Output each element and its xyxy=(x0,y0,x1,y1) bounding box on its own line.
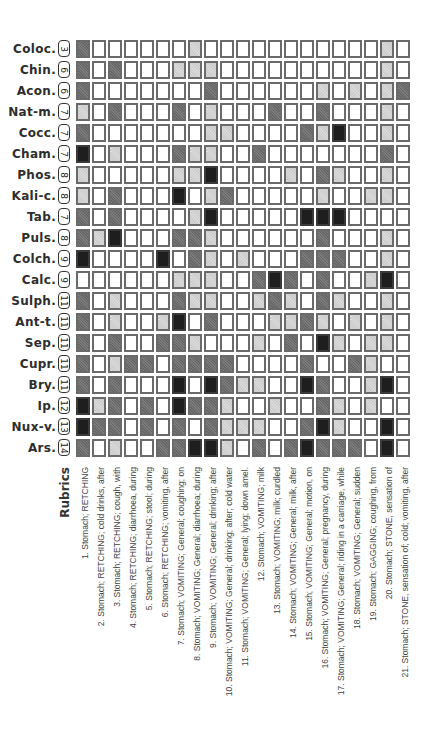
grade-cell[interactable] xyxy=(268,271,282,289)
remedy-name[interactable]: Sulph. xyxy=(0,292,56,310)
remedy-row[interactable]: Nux-v.13 xyxy=(0,418,420,436)
grade-cell[interactable] xyxy=(268,376,282,394)
grade-cell[interactable] xyxy=(284,439,298,457)
grade-cell[interactable] xyxy=(92,229,106,247)
grade-cell[interactable] xyxy=(124,376,138,394)
grade-cell[interactable] xyxy=(300,145,314,163)
grade-cell[interactable] xyxy=(172,355,186,373)
grade-cell[interactable] xyxy=(268,187,282,205)
grade-cell[interactable] xyxy=(188,292,202,310)
grade-cell[interactable] xyxy=(252,166,266,184)
grade-cell[interactable] xyxy=(380,166,394,184)
grade-cell[interactable] xyxy=(380,145,394,163)
grade-cell[interactable] xyxy=(204,82,218,100)
grade-cell[interactable] xyxy=(124,334,138,352)
grade-cell[interactable] xyxy=(348,313,362,331)
grade-cell[interactable] xyxy=(140,439,154,457)
grade-cell[interactable] xyxy=(220,439,234,457)
grade-cell[interactable] xyxy=(252,187,266,205)
grade-cell[interactable] xyxy=(332,313,346,331)
grade-cell[interactable] xyxy=(316,208,330,226)
grade-cell[interactable] xyxy=(220,271,234,289)
grade-cell[interactable] xyxy=(348,208,362,226)
grade-cell[interactable] xyxy=(284,355,298,373)
remedy-row[interactable]: Bry.11 xyxy=(0,376,420,394)
grade-cell[interactable] xyxy=(268,397,282,415)
grade-cell[interactable] xyxy=(300,271,314,289)
grade-cell[interactable] xyxy=(396,208,410,226)
grade-cell[interactable] xyxy=(92,40,106,58)
grade-cell[interactable] xyxy=(332,61,346,79)
grade-cell[interactable] xyxy=(380,229,394,247)
grade-cell[interactable] xyxy=(252,313,266,331)
grade-cell[interactable] xyxy=(364,355,378,373)
grade-cell[interactable] xyxy=(236,313,250,331)
grade-cell[interactable] xyxy=(76,439,90,457)
grade-cell[interactable] xyxy=(396,418,410,436)
grade-cell[interactable] xyxy=(252,271,266,289)
grade-cell[interactable] xyxy=(300,376,314,394)
grade-cell[interactable] xyxy=(204,376,218,394)
grade-cell[interactable] xyxy=(236,334,250,352)
grade-cell[interactable] xyxy=(140,145,154,163)
grade-cell[interactable] xyxy=(252,208,266,226)
grade-cell[interactable] xyxy=(284,292,298,310)
grade-cell[interactable] xyxy=(76,145,90,163)
remedy-name[interactable]: Calc. xyxy=(0,271,56,289)
grade-cell[interactable] xyxy=(284,61,298,79)
grade-cell[interactable] xyxy=(140,187,154,205)
grade-cell[interactable] xyxy=(348,271,362,289)
grade-cell[interactable] xyxy=(348,187,362,205)
remedy-name[interactable]: Tab. xyxy=(0,208,56,226)
grade-cell[interactable] xyxy=(348,103,362,121)
grade-cell[interactable] xyxy=(220,313,234,331)
grade-cell[interactable] xyxy=(156,103,170,121)
grade-cell[interactable] xyxy=(204,313,218,331)
grade-cell[interactable] xyxy=(204,145,218,163)
grade-cell[interactable] xyxy=(220,124,234,142)
grade-cell[interactable] xyxy=(220,40,234,58)
grade-cell[interactable] xyxy=(348,61,362,79)
grade-cell[interactable] xyxy=(220,229,234,247)
grade-cell[interactable] xyxy=(140,166,154,184)
grade-cell[interactable] xyxy=(236,82,250,100)
grade-cell[interactable] xyxy=(316,82,330,100)
grade-cell[interactable] xyxy=(172,271,186,289)
grade-cell[interactable] xyxy=(284,124,298,142)
grade-cell[interactable] xyxy=(348,40,362,58)
grade-cell[interactable] xyxy=(236,103,250,121)
grade-cell[interactable] xyxy=(252,61,266,79)
grade-cell[interactable] xyxy=(284,166,298,184)
grade-cell[interactable] xyxy=(396,187,410,205)
grade-cell[interactable] xyxy=(92,250,106,268)
grade-cell[interactable] xyxy=(396,313,410,331)
grade-cell[interactable] xyxy=(108,124,122,142)
grade-cell[interactable] xyxy=(140,40,154,58)
remedy-row[interactable]: Phos.8 xyxy=(0,166,420,184)
grade-cell[interactable] xyxy=(252,145,266,163)
grade-cell[interactable] xyxy=(108,61,122,79)
grade-cell[interactable] xyxy=(76,208,90,226)
grade-cell[interactable] xyxy=(204,187,218,205)
grade-cell[interactable] xyxy=(92,82,106,100)
grade-cell[interactable] xyxy=(204,208,218,226)
grade-cell[interactable] xyxy=(76,124,90,142)
grade-cell[interactable] xyxy=(364,208,378,226)
grade-cell[interactable] xyxy=(108,292,122,310)
grade-cell[interactable] xyxy=(300,103,314,121)
grade-cell[interactable] xyxy=(204,229,218,247)
remedy-name[interactable]: Sep. xyxy=(0,334,56,352)
remedy-name[interactable]: Colch. xyxy=(0,250,56,268)
grade-cell[interactable] xyxy=(236,145,250,163)
grade-cell[interactable] xyxy=(76,271,90,289)
grade-cell[interactable] xyxy=(220,376,234,394)
grade-cell[interactable] xyxy=(348,145,362,163)
grade-cell[interactable] xyxy=(92,355,106,373)
grade-cell[interactable] xyxy=(156,208,170,226)
grade-cell[interactable] xyxy=(268,250,282,268)
grade-cell[interactable] xyxy=(364,313,378,331)
grade-cell[interactable] xyxy=(364,376,378,394)
grade-cell[interactable] xyxy=(364,229,378,247)
remedy-name[interactable]: Cocc. xyxy=(0,124,56,142)
grade-cell[interactable] xyxy=(124,40,138,58)
